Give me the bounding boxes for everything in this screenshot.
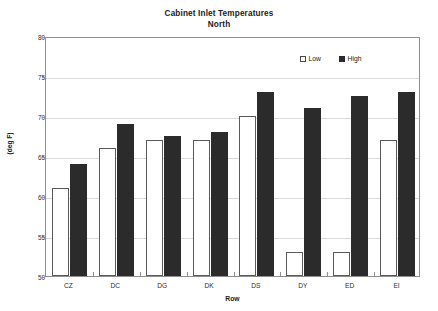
x-tick-mark (280, 272, 281, 276)
x-tick-mark (187, 272, 188, 276)
bar-dc-low (99, 148, 116, 276)
gridline (46, 78, 419, 79)
x-tick-label-ed: ED (330, 282, 370, 289)
bar-ei-low (380, 140, 397, 276)
legend-label-high: High (347, 55, 361, 62)
y-axis: 50556065707580 (0, 0, 45, 311)
x-tick-label-ds: DS (236, 282, 276, 289)
plot-area (45, 37, 420, 277)
bar-chart: Cabinet Inlet Temperatures North (deg F)… (0, 0, 438, 311)
x-tick-mark (140, 272, 141, 276)
y-tick-label: 65 (9, 154, 45, 161)
legend-label-low: Low (309, 55, 321, 62)
bar-ds-high (257, 92, 274, 276)
bar-ed-low (333, 252, 350, 276)
x-tick-label-dk: DK (189, 282, 229, 289)
x-tick-label-dc: DC (95, 282, 135, 289)
y-tick-label: 75 (9, 74, 45, 81)
bar-cz-low (52, 188, 69, 276)
x-tick-mark (234, 272, 235, 276)
bar-dy-low (286, 252, 303, 276)
y-tick-label: 80 (9, 34, 45, 41)
x-tick-mark (327, 272, 328, 276)
x-tick-mark (93, 272, 94, 276)
bar-ed-high (351, 96, 368, 276)
bar-dg-high (164, 136, 181, 276)
chart-title: Cabinet Inlet Temperatures (0, 8, 438, 19)
bar-dk-low (193, 140, 210, 276)
x-tick-label-cz: CZ (48, 282, 88, 289)
y-tick-label: 50 (9, 274, 45, 281)
x-axis-label: Row (45, 295, 420, 302)
y-tick-label: 70 (9, 114, 45, 121)
bar-ds-low (239, 116, 256, 276)
x-tick-label-dg: DG (142, 282, 182, 289)
legend-item-high: High (339, 55, 361, 62)
x-tick-mark (374, 272, 375, 276)
y-tick-mark (42, 277, 45, 278)
bar-dy-high (304, 108, 321, 276)
chart-legend: LowHigh (300, 55, 361, 62)
bar-dg-low (146, 140, 163, 276)
y-tick-label: 55 (9, 234, 45, 241)
chart-subtitle: North (0, 19, 438, 30)
x-tick-label-dy: DY (283, 282, 323, 289)
legend-item-low: Low (300, 55, 321, 62)
y-tick-label: 60 (9, 194, 45, 201)
bar-dk-high (211, 132, 228, 276)
legend-swatch-low-icon (300, 56, 306, 62)
chart-title-block: Cabinet Inlet Temperatures North (0, 8, 438, 30)
legend-swatch-high-icon (339, 56, 345, 62)
bar-ei-high (398, 92, 415, 276)
bar-cz-high (70, 164, 87, 276)
bar-dc-high (117, 124, 134, 276)
x-tick-label-ei: EI (377, 282, 417, 289)
